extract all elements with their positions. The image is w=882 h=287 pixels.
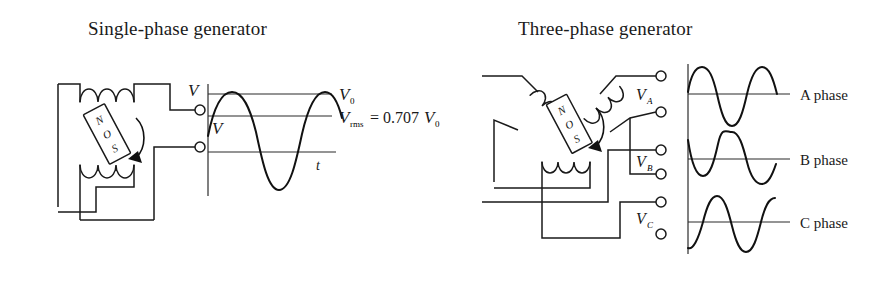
terminal-phase-c-top[interactable] xyxy=(656,197,666,207)
svg-text:0: 0 xyxy=(350,96,355,106)
legend-phase-b: B phase xyxy=(800,152,848,168)
svg-text:rms: rms xyxy=(350,119,364,129)
left-panel-title: Single-phase generator xyxy=(88,18,267,40)
wave-phase-b xyxy=(688,131,776,184)
legend-phase-c: C phase xyxy=(800,215,848,231)
rotation-arrow-arc xyxy=(596,108,604,146)
wire-coil-b-bottom-lead xyxy=(610,112,656,132)
label-phase-a: V A xyxy=(636,86,653,106)
svg-text:= 0.707: = 0.707 xyxy=(370,109,419,126)
generator-figure: Single-phase generator Three-phase gener… xyxy=(0,0,882,287)
wire-coil-a-top-lead xyxy=(482,76,538,92)
wave-phase-c xyxy=(688,196,775,252)
peak-label: V 0 xyxy=(339,85,355,106)
lower-stator-coil xyxy=(80,165,134,178)
voltage-sine-wave xyxy=(208,92,342,190)
svg-text:B: B xyxy=(647,163,653,173)
rotor-magnet: N O S xyxy=(83,104,130,165)
rms-label: V rms = 0.707 V 0 xyxy=(339,108,440,129)
plot-x-axis-label: t xyxy=(316,158,321,173)
svg-text:0: 0 xyxy=(435,119,440,129)
plot-y-axis-label: V xyxy=(188,81,201,100)
single-phase-plot: V t V 0 V rms = 0.707 V 0 xyxy=(186,78,486,198)
label-phase-c: V C xyxy=(636,210,654,230)
coil-phase-b-right xyxy=(584,87,627,127)
legend-phase-a: A phase xyxy=(800,87,848,103)
terminal-phase-b-bottom[interactable] xyxy=(656,169,666,179)
label-phase-b: V B xyxy=(636,153,653,173)
svg-text:C: C xyxy=(647,220,654,230)
terminal-phase-a-top[interactable] xyxy=(656,71,666,81)
terminal-phase-c-bottom[interactable] xyxy=(656,229,666,239)
svg-text:A: A xyxy=(646,96,653,106)
wire-coil-a-bottom-lead xyxy=(494,120,518,182)
wire-upper-coil-left-lead xyxy=(58,84,80,102)
three-phase-circuit: N O S V A V B V xyxy=(480,62,680,247)
wave-phase-a xyxy=(688,67,777,126)
rotor-magnet: N O S xyxy=(546,94,592,153)
upper-stator-coil xyxy=(80,89,134,102)
terminal-phase-a-bottom[interactable] xyxy=(656,107,666,117)
terminal-phase-b-top[interactable] xyxy=(656,145,666,155)
coil-phase-c-bottom xyxy=(542,162,590,173)
wire-coil-b-top-lead xyxy=(600,76,656,94)
three-phase-plots: A phase B phase C phase xyxy=(680,64,880,254)
right-panel-title: Three-phase generator xyxy=(518,18,693,40)
